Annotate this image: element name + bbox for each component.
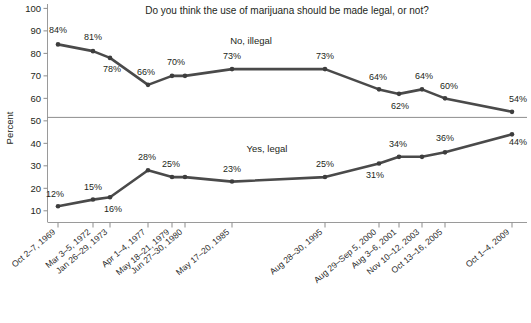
data-point-no-illegal bbox=[443, 96, 448, 101]
data-point-yes-legal bbox=[56, 204, 61, 209]
point-value-label-no-illegal: 64% bbox=[369, 72, 387, 82]
y-tick-label: 30 bbox=[30, 160, 41, 171]
data-point-no-illegal bbox=[170, 74, 175, 79]
point-value-label-yes-legal: 36% bbox=[436, 133, 454, 143]
x-axis-date-labels: Oct 2–7, 1969Mar 3–5, 1972Jan 26–29, 197… bbox=[9, 227, 511, 285]
y-tick-label: 90 bbox=[30, 25, 41, 36]
data-point-no-illegal bbox=[108, 56, 113, 61]
data-point-no-illegal bbox=[183, 74, 188, 79]
data-point-yes-legal bbox=[420, 155, 425, 160]
point-value-label-no-illegal: 62% bbox=[391, 101, 409, 111]
point-value-label-yes-legal: 12% bbox=[46, 189, 64, 199]
y-tick-label: 50 bbox=[30, 115, 41, 126]
data-point-yes-legal bbox=[108, 195, 113, 200]
y-axis-tick-labels: 102030405060708090100 bbox=[25, 3, 41, 216]
series-label-no-illegal: No, illegal bbox=[230, 35, 272, 46]
point-value-label-yes-legal: 25% bbox=[162, 159, 180, 169]
point-value-label-no-illegal: 70% bbox=[167, 57, 185, 67]
y-tick-label: 70 bbox=[30, 70, 41, 81]
data-point-yes-legal bbox=[323, 175, 328, 180]
point-value-label-yes-legal: 15% bbox=[84, 182, 102, 192]
data-point-yes-legal bbox=[443, 150, 448, 155]
data-point-no-illegal bbox=[230, 67, 235, 72]
x-axis-ticks bbox=[58, 223, 512, 228]
point-value-label-no-illegal: 81% bbox=[84, 32, 102, 42]
data-point-no-illegal bbox=[91, 49, 96, 54]
y-tick-label: 40 bbox=[30, 138, 41, 149]
point-value-label-yes-legal: 28% bbox=[138, 152, 156, 162]
data-point-no-illegal bbox=[146, 83, 151, 88]
point-value-label-no-illegal: 84% bbox=[49, 25, 67, 35]
data-point-yes-legal bbox=[510, 132, 515, 137]
point-value-label-no-illegal: 64% bbox=[415, 71, 433, 81]
data-point-yes-legal bbox=[91, 197, 96, 202]
point-value-label-yes-legal: 25% bbox=[316, 159, 334, 169]
data-point-no-illegal bbox=[56, 42, 61, 47]
data-point-no-illegal bbox=[397, 92, 402, 97]
point-value-label-no-illegal: 66% bbox=[137, 67, 155, 77]
point-value-label-no-illegal: 54% bbox=[509, 94, 527, 104]
point-value-label-yes-legal: 31% bbox=[366, 170, 384, 180]
data-point-no-illegal bbox=[323, 67, 328, 72]
point-value-label-yes-legal: 34% bbox=[389, 139, 407, 149]
data-point-yes-legal bbox=[377, 161, 382, 166]
marijuana-legalization-line-chart: 102030405060708090100 Percent Do you thi… bbox=[0, 0, 531, 323]
chart-title: Do you think the use of marijuana should… bbox=[145, 5, 429, 16]
data-point-no-illegal bbox=[510, 110, 515, 115]
point-value-label-no-illegal: 60% bbox=[440, 81, 458, 91]
point-value-label-no-illegal: 78% bbox=[103, 64, 121, 74]
data-point-no-illegal bbox=[377, 87, 382, 92]
data-point-yes-legal bbox=[397, 155, 402, 160]
x-axis-date-label: Oct 1–4, 2009 bbox=[463, 227, 511, 270]
point-value-label-yes-legal: 44% bbox=[509, 137, 527, 147]
y-tick-label: 80 bbox=[30, 48, 41, 59]
series-label-yes-legal: Yes, legal bbox=[247, 143, 288, 154]
y-tick-label: 10 bbox=[30, 205, 41, 216]
point-value-label-yes-legal: 16% bbox=[104, 204, 122, 214]
y-tick-label: 100 bbox=[25, 3, 41, 14]
point-value-label-no-illegal: 73% bbox=[223, 51, 241, 61]
data-point-yes-legal bbox=[230, 179, 235, 184]
data-point-no-illegal bbox=[420, 87, 425, 92]
data-point-yes-legal bbox=[146, 168, 151, 173]
x-axis-date-label: Aug 28–30, 1995 bbox=[268, 227, 325, 277]
series-no-illegal bbox=[56, 42, 515, 114]
y-axis-ticks bbox=[44, 8, 48, 210]
data-point-yes-legal bbox=[170, 175, 175, 180]
y-tick-label: 20 bbox=[30, 183, 41, 194]
chart-container: 102030405060708090100 Percent Do you thi… bbox=[0, 0, 531, 323]
point-value-label-yes-legal: 23% bbox=[223, 164, 241, 174]
data-point-yes-legal bbox=[183, 175, 188, 180]
y-axis-title: Percent bbox=[4, 111, 15, 144]
point-value-label-no-illegal: 73% bbox=[316, 51, 334, 61]
y-tick-label: 60 bbox=[30, 93, 41, 104]
